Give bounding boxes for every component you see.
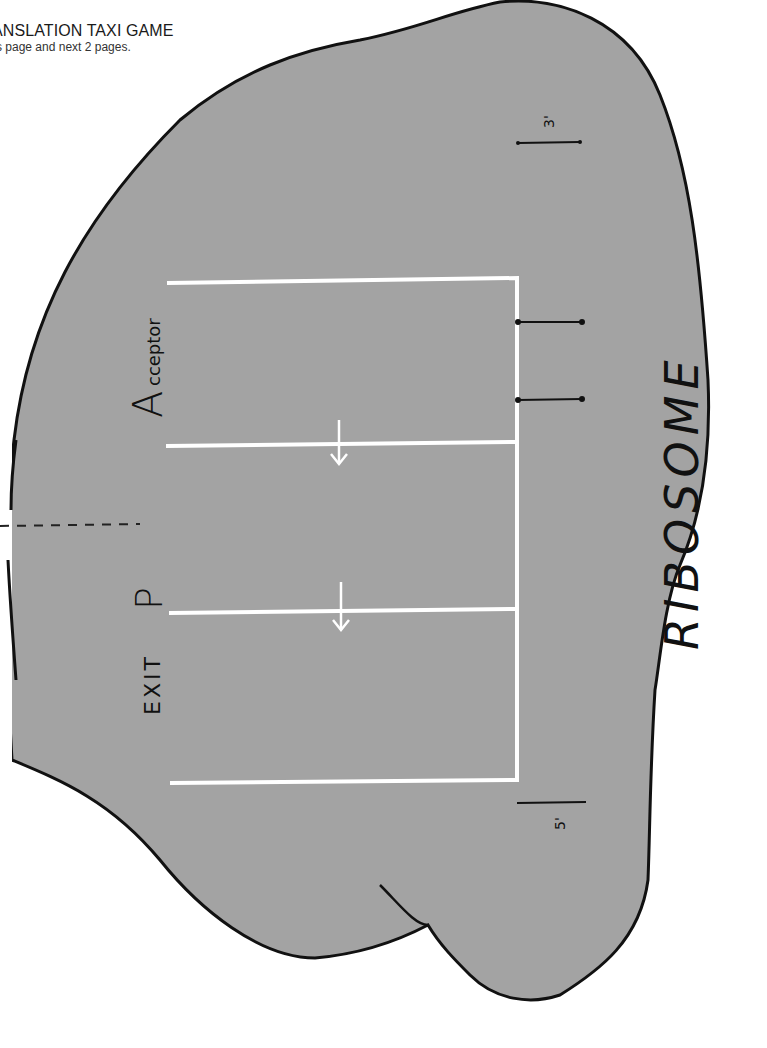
ribosome-label: RIBOSOME <box>655 355 709 650</box>
ribosome-diagram: 3' 5' A cceptor P EXIT RIBOSOME <box>0 0 767 1048</box>
ribosome-body <box>6 1 709 1000</box>
p-site-label: P <box>127 587 171 610</box>
acceptor-label-big: A <box>125 391 171 418</box>
exit-site-label: EXIT <box>140 654 165 715</box>
acceptor-label-small: cceptor <box>143 318 164 386</box>
three-prime-label: 3' <box>541 115 557 128</box>
five-prime-label: 5' <box>552 817 568 830</box>
